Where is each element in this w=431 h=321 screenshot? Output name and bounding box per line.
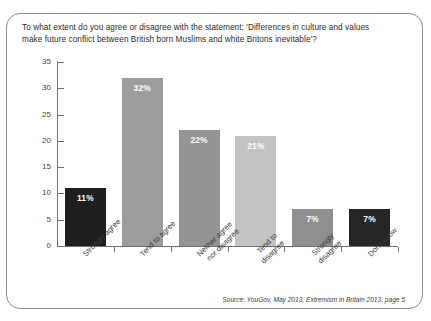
y-tick-label-5: 5 [0,215,51,224]
bar-value-label-4: 21% [235,141,276,151]
x-tick-1 [114,247,115,252]
x-tick-6 [398,247,399,252]
y-tick-20 [58,141,64,142]
x-tick-4 [284,247,285,252]
y-tick-35 [58,62,64,63]
y-tick-25 [58,115,64,116]
y-tick-5 [58,220,64,221]
bar-value-label-3: 22% [179,135,220,145]
bar-value-label-6: 7% [349,214,390,224]
y-tick-0 [58,246,64,247]
bar-value-label-5: 7% [292,214,333,224]
y-tick-label-15: 15 [0,162,51,171]
bar-value-label-2: 32% [122,83,163,93]
plot-area: 05101520253035 11%32%22%21%7%7% Strongly… [0,0,431,321]
bar-4: 21% [235,136,276,246]
y-tick-label-30: 30 [0,83,51,92]
y-tick-label-0: 0 [0,241,51,250]
y-tick-15 [58,167,64,168]
x-tick-3 [228,247,229,252]
y-tick-label-25: 25 [0,110,51,119]
y-tick-label-20: 20 [0,136,51,145]
bar-value-label-1: 11% [65,193,106,203]
y-tick-10 [58,193,64,194]
x-tick-5 [341,247,342,252]
x-tick-2 [171,247,172,252]
y-tick-30 [58,88,64,89]
bar-3: 22% [179,130,220,246]
y-tick-label-10: 10 [0,188,51,197]
source-note: Source: YouGov, May 2013, Extremism in B… [222,296,405,303]
chart-figure: To what extent do you agree or disagree … [0,0,431,321]
y-tick-label-35: 35 [0,57,51,66]
bar-2: 32% [122,78,163,246]
